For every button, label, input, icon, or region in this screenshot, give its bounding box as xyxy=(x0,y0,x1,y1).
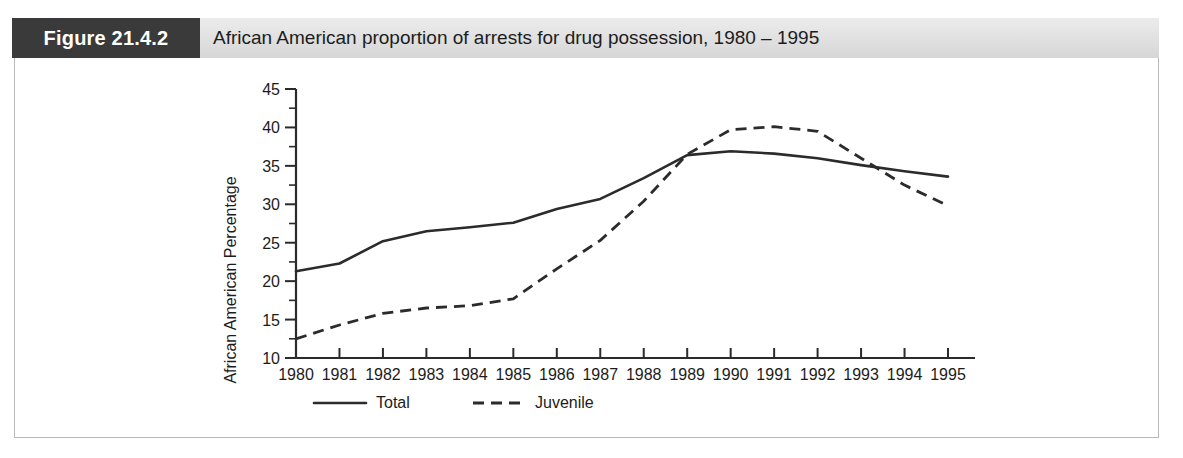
x-tick-label: 1993 xyxy=(843,366,879,383)
y-tick-label: 35 xyxy=(262,158,280,175)
legend-label-total: Total xyxy=(376,394,410,411)
x-tick-label: 1988 xyxy=(626,366,662,383)
x-tick-label: 1989 xyxy=(669,366,705,383)
series-line-total xyxy=(296,151,948,271)
y-tick-label: 40 xyxy=(262,119,280,136)
x-tick-label: 1984 xyxy=(452,366,488,383)
figure-number-label: Figure 21.4.2 xyxy=(12,18,200,58)
figure-title: African American proportion of arrests f… xyxy=(213,18,819,58)
x-tick-label: 1982 xyxy=(365,366,401,383)
x-tick-label: 1987 xyxy=(582,366,618,383)
chart-legend: TotalJuvenile xyxy=(314,394,594,411)
y-tick-label: 15 xyxy=(262,312,280,329)
x-tick-label: 1991 xyxy=(756,366,792,383)
x-tick-label: 1994 xyxy=(887,366,923,383)
x-tick-label: 1990 xyxy=(713,366,749,383)
legend-label-juvenile: Juvenile xyxy=(535,394,594,411)
x-tick-label: 1985 xyxy=(496,366,532,383)
figure-container: Figure 21.4.2 African American proportio… xyxy=(0,0,1183,458)
chart-svg: 1015202530354045 19801981198219831984198… xyxy=(14,58,1159,438)
y-tick-label: 10 xyxy=(262,350,280,367)
x-axis: 1980198119821983198419851986198719881989… xyxy=(278,348,975,383)
y-axis: 1015202530354045 xyxy=(262,81,296,367)
y-tick-label: 30 xyxy=(262,196,280,213)
series-line-juvenile xyxy=(296,127,948,339)
y-tick-label: 45 xyxy=(262,81,280,98)
x-tick-label: 1986 xyxy=(539,366,575,383)
x-tick-label: 1981 xyxy=(322,366,358,383)
y-axis-title: African American Percentage xyxy=(222,176,239,383)
line-chart: 1015202530354045 19801981198219831984198… xyxy=(14,58,1159,438)
y-tick-label: 25 xyxy=(262,235,280,252)
x-tick-label: 1983 xyxy=(409,366,445,383)
x-tick-label: 1995 xyxy=(930,366,966,383)
y-tick-label: 20 xyxy=(262,273,280,290)
x-tick-label: 1992 xyxy=(800,366,836,383)
x-tick-label: 1980 xyxy=(278,366,314,383)
